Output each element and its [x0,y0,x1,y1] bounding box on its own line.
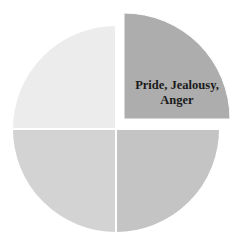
pie-slice-top-left [12,25,116,129]
pie-chart: Pride, Jealousy, Anger [0,0,238,251]
slice-label-line1: Pride, Jealousy, [135,78,219,92]
pie-slice-bottom-right [116,129,220,233]
pie-slice-bottom-left [12,129,116,233]
slice-label-line2: Anger [160,93,194,107]
